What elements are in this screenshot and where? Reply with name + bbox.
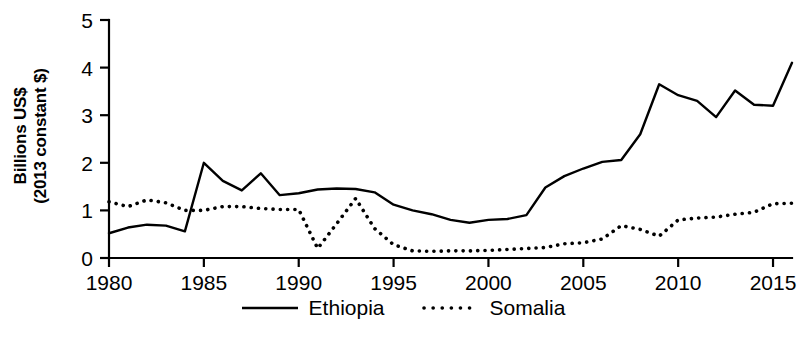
x-tick-label: 1980: [86, 271, 133, 294]
x-tick-label: 2015: [750, 271, 797, 294]
x-tick-label: 1985: [181, 271, 228, 294]
x-tick-label: 1990: [275, 271, 322, 294]
y-tick-label: 2: [81, 152, 93, 175]
series-line-ethiopia: [109, 63, 792, 233]
series-line-somalia: [109, 199, 792, 252]
x-tick-label: 2005: [560, 271, 607, 294]
x-tick-label: 2010: [655, 271, 702, 294]
plot-area: 012345 19801985199019952000200520102015: [0, 0, 805, 300]
data-series-group: [109, 63, 792, 252]
y-tick-label: 3: [81, 104, 93, 127]
legend-swatch-dotted: [421, 301, 481, 315]
legend-label-ethiopia: Ethiopia: [309, 296, 385, 320]
legend-swatch-solid: [240, 301, 300, 315]
y-tick-label: 1: [81, 199, 93, 222]
y-tick-label: 0: [81, 247, 93, 270]
x-tick-label: 1995: [370, 271, 417, 294]
legend-item-ethiopia[interactable]: Ethiopia: [240, 296, 385, 320]
chart-legend: Ethiopia Somalia: [0, 296, 805, 320]
legend-item-somalia[interactable]: Somalia: [421, 296, 566, 320]
y-tick-group: 012345: [81, 9, 109, 270]
x-tick-label: 2000: [465, 271, 512, 294]
y-tick-label: 4: [81, 57, 93, 80]
legend-label-somalia: Somalia: [490, 296, 566, 320]
x-tick-group: 19801985199019952000200520102015: [86, 258, 797, 294]
y-tick-label: 5: [81, 9, 93, 32]
chart-figure: Billions US$ (2013 constant $) 012345 19…: [0, 0, 805, 353]
